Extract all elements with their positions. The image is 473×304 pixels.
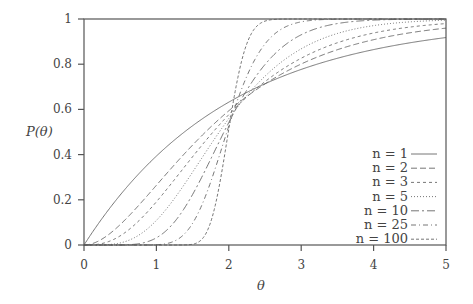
legend: n = 1n = 2n = 3n = 5n = 10n = 25n = 100	[356, 146, 437, 246]
x-tick-label: 0	[80, 258, 88, 272]
legend-label: n = 2	[372, 160, 408, 175]
legend-label: n = 25	[364, 217, 408, 232]
x-axis-ticks: 012345	[80, 245, 450, 272]
x-tick-label: 5	[442, 258, 450, 272]
x-tick-label: 2	[225, 258, 233, 272]
x-tick-label: 3	[297, 258, 305, 272]
legend-label: n = 1	[372, 146, 408, 161]
legend-item-n-2: n = 2	[372, 160, 437, 175]
y-tick-label: 0	[64, 238, 72, 252]
y-axis-label: P(θ)	[25, 124, 53, 139]
y-tick-label: 0.8	[53, 57, 72, 71]
x-axis-label: θ	[257, 278, 265, 293]
legend-item-n-100: n = 100	[356, 231, 437, 246]
legend-label: n = 3	[372, 174, 408, 189]
x-tick-label: 4	[370, 258, 378, 272]
y-tick-label: 1	[64, 12, 72, 26]
legend-label: n = 5	[372, 189, 408, 204]
legend-item-n-10: n = 10	[364, 203, 437, 218]
legend-label: n = 100	[356, 231, 408, 246]
legend-item-n-1: n = 1	[372, 146, 437, 161]
y-tick-label: 0.2	[53, 193, 72, 207]
legend-item-n-25: n = 25	[364, 217, 437, 232]
chart: 00.20.40.60.81 012345 P(θ) θ n = 1n = 2n…	[0, 0, 473, 304]
legend-label: n = 10	[364, 203, 408, 218]
x-tick-label: 1	[153, 258, 161, 272]
legend-item-n-5: n = 5	[372, 189, 437, 204]
legend-item-n-3: n = 3	[372, 174, 437, 189]
y-tick-label: 0.6	[53, 102, 72, 116]
y-tick-label: 0.4	[53, 148, 72, 162]
y-axis-ticks: 00.20.40.60.81	[53, 12, 84, 252]
